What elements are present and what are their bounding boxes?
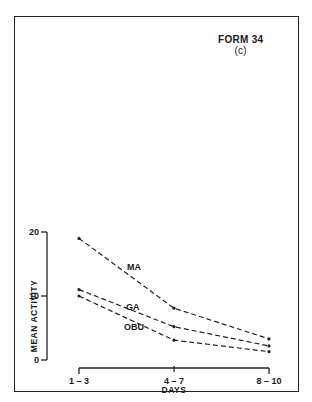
y-tick-0: 0	[34, 355, 39, 365]
y-tick-20: 20	[29, 227, 39, 237]
series-line-ma	[79, 238, 269, 338]
series-line-obu	[79, 296, 269, 352]
series-label-ga: GA	[126, 302, 140, 312]
data-point	[77, 237, 80, 240]
data-point	[172, 325, 175, 328]
y-axis: 20 10 0 MEAN ACTIVITY	[29, 227, 47, 365]
data-point	[77, 288, 80, 291]
x-tick-3: 8 – 10	[256, 376, 281, 386]
data-point	[267, 337, 270, 340]
x-tick-1: 1 – 3	[69, 376, 89, 386]
x-axis-title: DAYS	[162, 385, 187, 395]
data-point	[267, 350, 270, 353]
data-point	[172, 307, 175, 310]
line-chart: 20 10 0 MEAN ACTIVITY 1 – 3 4 – 7 8 – 10…	[0, 0, 312, 402]
x-axis: 1 – 3 4 – 7 8 – 10 DAYS	[69, 366, 282, 395]
series-label-ma: MA	[127, 262, 141, 272]
series-line-ga	[79, 290, 269, 346]
data-point	[172, 339, 175, 342]
y-axis-title: MEAN ACTIVITY	[29, 280, 39, 352]
series-label-obu: OBU	[124, 322, 144, 332]
data-point	[267, 344, 270, 347]
data-point	[77, 294, 80, 297]
series-layer	[77, 237, 270, 353]
